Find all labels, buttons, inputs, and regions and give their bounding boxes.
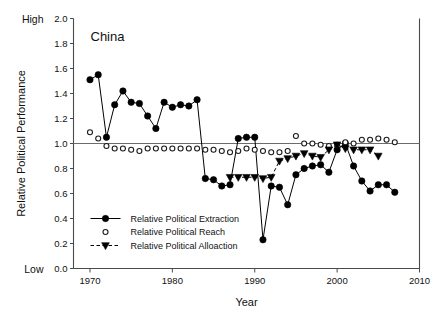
data-point-triangle xyxy=(366,147,374,154)
data-point-filled-circle xyxy=(375,182,381,188)
data-point-open-circle xyxy=(96,136,101,141)
legend-item: Relative Political Extraction xyxy=(91,214,240,224)
data-point-open-circle xyxy=(153,146,158,151)
data-point-filled-circle xyxy=(317,162,323,168)
legend-label: Relative Political Alloaction xyxy=(131,241,238,251)
data-point-filled-circle xyxy=(128,99,134,105)
y-tick-label: 2.0 xyxy=(54,13,67,24)
data-point-open-circle xyxy=(112,146,117,151)
data-point-open-circle xyxy=(293,134,298,139)
data-point-filled-circle xyxy=(103,134,109,140)
data-point-triangle xyxy=(276,158,284,165)
legend-item: Relative Political Reach xyxy=(103,227,225,237)
data-point-filled-circle xyxy=(95,72,101,78)
data-point-open-circle xyxy=(269,150,274,155)
axes: 0.00.20.40.60.81.01.21.41.61.82.01970198… xyxy=(54,13,430,286)
data-point-open-circle xyxy=(170,146,175,151)
data-point-open-circle xyxy=(228,150,233,155)
data-point-triangle xyxy=(243,174,251,181)
data-point-triangle xyxy=(300,151,308,158)
data-point-open-circle xyxy=(302,141,307,146)
data-point-open-circle xyxy=(359,137,364,142)
data-point-filled-circle xyxy=(153,125,159,131)
data-point-triangle xyxy=(350,147,358,154)
data-point-filled-circle xyxy=(144,113,150,119)
data-point-open-circle xyxy=(87,130,92,135)
data-point-open-circle xyxy=(195,146,200,151)
data-point-filled-circle xyxy=(161,99,167,105)
data-point-filled-circle xyxy=(367,188,373,194)
x-tick-label: 2000 xyxy=(327,275,348,286)
data-point-open-circle xyxy=(203,147,208,152)
data-point-open-circle xyxy=(211,147,216,152)
data-point-triangle xyxy=(375,153,383,160)
data-point-filled-circle xyxy=(111,102,117,108)
data-point-filled-circle xyxy=(293,172,299,178)
data-point-open-circle xyxy=(120,146,125,151)
data-point-filled-circle xyxy=(169,104,175,110)
y-tick-label: 1.2 xyxy=(54,113,67,124)
data-point-filled-circle xyxy=(136,100,142,106)
data-point-filled-circle xyxy=(260,237,266,243)
data-point-filled-circle xyxy=(87,77,93,83)
series-2 xyxy=(87,130,397,155)
data-point-filled-circle xyxy=(202,175,208,181)
data-point-open-circle xyxy=(368,137,373,142)
chart-svg: 0.00.20.40.60.81.01.21.41.61.82.01970198… xyxy=(0,0,439,311)
data-point-open-circle xyxy=(285,149,290,154)
axis-labels: YearRelative Political PerformanceHighLo… xyxy=(15,13,258,308)
x-tick-label: 2010 xyxy=(409,275,430,286)
data-point-filled-circle xyxy=(243,134,249,140)
data-point-triangle xyxy=(259,176,267,183)
panel-title-text: China xyxy=(91,29,126,44)
y-tick-label: 1.0 xyxy=(54,138,67,149)
data-point-triangle xyxy=(102,243,110,250)
data-point-triangle xyxy=(226,174,234,181)
legend-label: Relative Political Extraction xyxy=(131,214,240,224)
data-point-filled-circle xyxy=(219,183,225,189)
x-tick-label: 1970 xyxy=(79,275,100,286)
data-point-open-circle xyxy=(137,149,142,154)
data-point-open-circle xyxy=(310,141,315,146)
x-tick-label: 1990 xyxy=(244,275,265,286)
y-tick-label: 0.8 xyxy=(54,163,67,174)
data-point-triangle xyxy=(317,154,325,161)
data-point-open-circle xyxy=(103,230,108,235)
data-point-open-circle xyxy=(129,147,134,152)
data-point-filled-circle xyxy=(309,163,315,169)
data-point-filled-circle xyxy=(102,215,108,221)
data-point-filled-circle xyxy=(326,169,332,175)
data-point-filled-circle xyxy=(194,97,200,103)
data-point-open-circle xyxy=(392,140,397,145)
data-point-open-circle xyxy=(178,146,183,151)
legend-label: Relative Political Reach xyxy=(131,227,226,237)
data-point-open-circle xyxy=(162,146,167,151)
data-point-filled-circle xyxy=(186,103,192,109)
data-point-filled-circle xyxy=(392,189,398,195)
x-axis-title: Year xyxy=(235,296,258,308)
data-point-triangle xyxy=(284,156,292,163)
data-point-open-circle xyxy=(104,144,109,149)
data-point-open-circle xyxy=(244,146,249,151)
data-point-open-circle xyxy=(260,149,265,154)
data-point-filled-circle xyxy=(383,182,389,188)
data-point-open-circle xyxy=(277,150,282,155)
data-point-open-circle xyxy=(236,149,241,154)
data-point-filled-circle xyxy=(177,102,183,108)
data-point-open-circle xyxy=(219,149,224,154)
data-point-triangle xyxy=(234,174,242,181)
data-point-triangle xyxy=(358,147,366,154)
data-point-filled-circle xyxy=(252,134,258,140)
legend-item: Relative Political Alloaction xyxy=(91,241,238,251)
panel-title: China xyxy=(91,29,126,44)
data-point-filled-circle xyxy=(350,163,356,169)
data-point-filled-circle xyxy=(359,178,365,184)
data-point-filled-circle xyxy=(120,88,126,94)
x-tick-label: 1980 xyxy=(162,275,183,286)
y-axis-title: Relative Political Performance xyxy=(15,70,27,217)
data-point-open-circle xyxy=(145,146,150,151)
low-label: Low xyxy=(24,263,44,275)
data-point-filled-circle xyxy=(227,182,233,188)
high-label: High xyxy=(22,13,44,25)
data-point-filled-circle xyxy=(284,202,290,208)
